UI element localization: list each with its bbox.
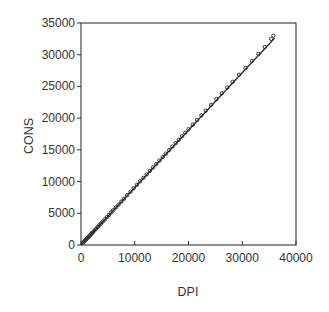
x-axis-title: DPI xyxy=(178,285,199,299)
data-point xyxy=(272,34,275,37)
y-tick-label: 35000 xyxy=(42,16,76,30)
y-axis-title: CONS xyxy=(22,118,36,154)
data-point xyxy=(270,37,273,40)
y-tick-label: 25000 xyxy=(42,79,76,93)
scatter-chart: 010000200003000040000 050001000015000200… xyxy=(0,0,329,312)
x-tick-label: 30000 xyxy=(226,251,260,265)
y-tick-label: 30000 xyxy=(42,48,76,62)
y-tick-label: 10000 xyxy=(42,175,76,189)
x-tick-label: 10000 xyxy=(118,251,152,265)
y-tick-label: 5000 xyxy=(48,206,75,220)
y-tick-label: 0 xyxy=(68,238,75,252)
x-tick-label: 40000 xyxy=(279,251,313,265)
x-tick-label: 0 xyxy=(78,251,85,265)
y-axis: 05000100001500020000250003000035000 xyxy=(42,16,81,252)
y-tick-label: 15000 xyxy=(42,143,76,157)
y-tick-label: 20000 xyxy=(42,111,76,125)
x-tick-label: 20000 xyxy=(172,251,206,265)
